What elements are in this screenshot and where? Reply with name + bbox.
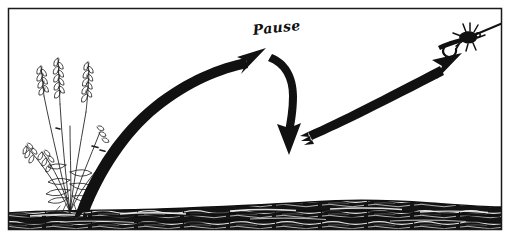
fly-casting-figure: Pause — [0, 0, 510, 237]
